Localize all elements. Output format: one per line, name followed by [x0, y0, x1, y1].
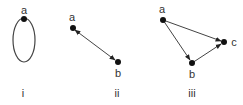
node-label-c: c — [231, 36, 237, 48]
node-label-a: a — [21, 4, 28, 16]
graph-iii: a b c iii — [159, 3, 237, 99]
node-label-a: a — [159, 3, 166, 15]
self-loop-edge-a-a — [13, 18, 35, 62]
node-a — [160, 17, 166, 23]
edge-b-c — [192, 44, 221, 63]
node-b — [189, 60, 195, 66]
node-label-b: b — [115, 67, 121, 79]
graph-ii: a b ii — [69, 11, 121, 99]
node-c — [221, 39, 227, 45]
node-a — [70, 25, 76, 31]
node-a — [21, 16, 27, 22]
graph-caption: iii — [188, 87, 195, 99]
node-b — [115, 59, 121, 65]
edge-a-c — [163, 20, 221, 41]
graph-caption: i — [22, 87, 24, 99]
node-label-a: a — [69, 11, 76, 23]
edge-a-b-bidirectional — [75, 30, 115, 60]
graph-diagram: a i a b ii a b c iii — [0, 0, 243, 105]
graph-caption: ii — [115, 87, 120, 99]
node-label-b: b — [189, 68, 195, 80]
graph-i: a i — [13, 4, 35, 99]
edge-a-b — [163, 20, 190, 60]
